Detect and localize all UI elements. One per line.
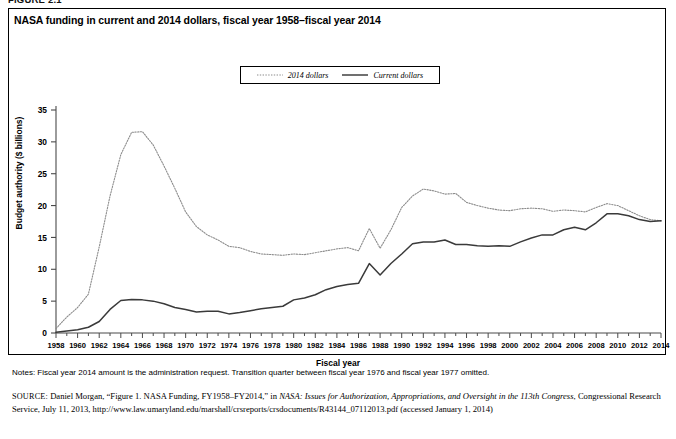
legend-label-current-dollars: Current dollars	[373, 71, 423, 80]
chart-source: SOURCE: Daniel Morgan, “Figure 1. NASA F…	[12, 390, 664, 415]
x-axis-title: Fiscal year	[0, 358, 676, 368]
y-axis-title: Budget authority ($ billions)	[14, 98, 24, 248]
legend-label-2014-dollars: 2014 dollars	[288, 71, 329, 80]
chart-legend: 2014 dollars Current dollars	[240, 66, 440, 84]
legend-swatch-solid-icon	[342, 72, 368, 78]
legend-item-2014-dollars: 2014 dollars	[257, 71, 329, 80]
figure-label: FIGURE 2.1	[8, 0, 62, 5]
chart-title: NASA funding in current and 2014 dollars…	[14, 14, 381, 26]
legend-swatch-dotted-icon	[257, 72, 283, 78]
figure-border	[8, 8, 666, 355]
legend-item-current-dollars: Current dollars	[342, 71, 423, 80]
source-italic-title: NASA: Issues for Authorization, Appropri…	[279, 391, 573, 401]
source-prefix: SOURCE:	[12, 392, 48, 401]
source-author: Daniel Morgan, “Figure 1. NASA Funding, …	[48, 391, 279, 401]
chart-notes: Notes: Fiscal year 2014 amount is the ad…	[12, 368, 666, 378]
